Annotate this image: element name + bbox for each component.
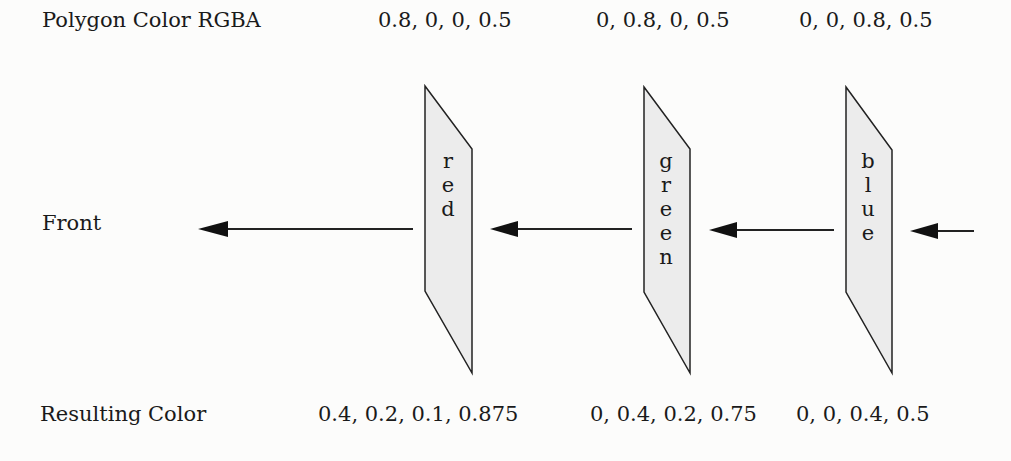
arrow-blue-to-green [709,222,834,238]
letter: e [433,173,463,197]
blue-panel-label: b l u e [853,149,883,245]
arrow-green-to-red [490,221,632,237]
letter: e [853,221,883,245]
arrow-incoming [910,223,974,239]
letter: u [853,197,883,221]
letter: l [853,173,883,197]
letter: b [853,149,883,173]
letter: e [651,197,681,221]
letter: r [433,149,463,173]
letter: g [651,149,681,173]
red-panel [425,86,472,373]
letter: e [651,221,681,245]
letter: r [651,173,681,197]
letter: d [433,197,463,221]
letter: n [651,245,681,269]
red-panel-label: r e d [433,149,463,221]
green-panel-label: g r e e n [651,149,681,269]
arrow-front [198,221,413,237]
